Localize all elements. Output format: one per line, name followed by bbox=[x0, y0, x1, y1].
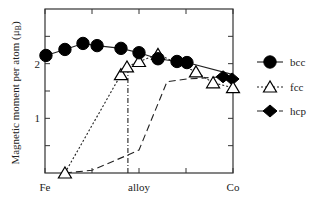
legend-circle-icon bbox=[264, 56, 276, 68]
legend-label: hcp bbox=[290, 105, 306, 117]
x-tick-label: Fe bbox=[40, 181, 51, 193]
plot-border bbox=[45, 9, 233, 173]
legend-item-hcp: hcp bbox=[257, 105, 306, 117]
bcc-marker bbox=[181, 56, 193, 68]
bcc-marker bbox=[133, 47, 145, 59]
bcc-marker bbox=[115, 42, 127, 54]
bcc-marker bbox=[91, 39, 103, 51]
legend-item-bcc: bcc bbox=[257, 56, 305, 68]
bcc-marker bbox=[40, 49, 52, 61]
y-tick-label: 1 bbox=[35, 112, 41, 124]
bcc-marker bbox=[77, 37, 89, 49]
y-tick-labels: 12 bbox=[35, 58, 41, 125]
plot-frame bbox=[45, 9, 233, 173]
legend-item-fcc: fcc bbox=[257, 81, 304, 93]
series-fcc bbox=[65, 54, 233, 173]
legend-label: bcc bbox=[290, 56, 305, 68]
legend-diamond-icon bbox=[263, 105, 277, 117]
markers-fcc bbox=[58, 48, 239, 178]
magnetic-moment-chart: FealloyCo 12 Magnetic moment per atom (μ… bbox=[0, 0, 321, 202]
fcc-line bbox=[65, 54, 233, 173]
bcc-marker bbox=[152, 53, 164, 65]
fcc-marker bbox=[227, 82, 240, 93]
legend: bccfcchcp bbox=[257, 56, 306, 117]
x-tick-labels: FealloyCo bbox=[40, 181, 240, 193]
x-tick-label: Co bbox=[227, 181, 240, 193]
series-hcp bbox=[65, 77, 232, 173]
y-tick-label: 2 bbox=[35, 58, 41, 70]
hcp-line bbox=[65, 77, 232, 173]
x-tick-label: alloy bbox=[128, 181, 150, 193]
y-axis-label: Magnetic moment per atom (μB) bbox=[9, 21, 23, 165]
series-layer bbox=[40, 37, 240, 178]
markers-bcc bbox=[40, 37, 193, 69]
bcc-marker bbox=[59, 43, 71, 55]
legend-label: fcc bbox=[290, 81, 304, 93]
fcc-marker bbox=[120, 61, 133, 72]
